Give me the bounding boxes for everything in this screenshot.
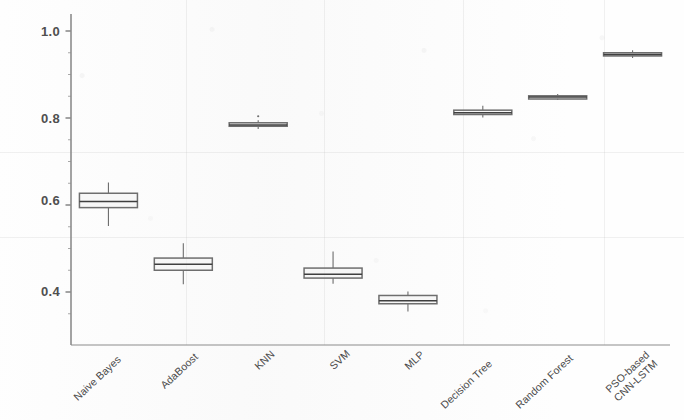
boxplot-figure: 1.0 0.8 0.6 0.4 Naive BayesAdaBoostKNNSV… [0,0,684,420]
y-tick-label-1: 1.0 [18,24,60,39]
y-tick-label-2: 0.8 [18,111,60,126]
boxplot-group-mlp [379,292,437,312]
boxplot-group-naive-bayes [79,182,137,226]
boxplot-group-decision-tree [454,106,512,118]
box-iqr [79,193,137,207]
box-iqr [379,295,437,303]
y-tick-label-4: 0.4 [18,284,60,299]
boxplot-group-pso-based-cnn-lstm [604,50,662,58]
y-tick-label-3: 0.6 [18,193,60,208]
boxplot-group-knn [229,115,287,129]
boxplot-group-adaboost [154,243,212,284]
boxplot-group-random-forest [529,94,587,100]
box-iqr [304,268,362,278]
boxplot-group-svm [304,252,362,284]
outlier-point [257,115,259,117]
